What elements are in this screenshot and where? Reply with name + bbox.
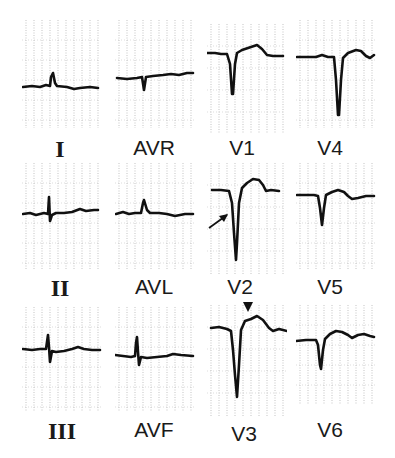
ecg-trace-lead-ii (22, 163, 100, 269)
ecg-panel-lead-iii (22, 307, 102, 411)
lead-label-v6: V6 (290, 418, 370, 442)
ecg-trace-lead-v2 (207, 163, 285, 275)
lead-label-avr: AVR (114, 136, 194, 160)
ecg-trace-lead-v6 (296, 305, 376, 405)
ecg-panel-lead-v5 (296, 163, 376, 269)
lead-label-ii: II (20, 275, 100, 302)
arrow-annotation-v2 (209, 214, 228, 228)
lead-label-v2: V2 (200, 275, 280, 299)
lead-label-v5: V5 (290, 275, 370, 299)
ecg-panel-lead-avf (115, 307, 195, 411)
lead-label-avf: AVF (114, 418, 194, 442)
lead-label-avl: AVL (114, 275, 194, 299)
ecg-panel-lead-avl (115, 163, 195, 269)
ecg-panel-lead-avr (115, 20, 195, 128)
ecg-panel-lead-v4 (296, 20, 376, 128)
lead-label-v1: V1 (202, 136, 282, 160)
lead-label-iii: III (22, 418, 102, 445)
ecg-trace-lead-i (22, 20, 100, 128)
lead-label-i: I (20, 136, 100, 163)
ecg-trace-lead-avf (115, 307, 195, 411)
ecg-trace-lead-avr (115, 20, 195, 128)
arrowhead-marker-v3 (243, 302, 253, 312)
ecg-panel-lead-v1 (207, 24, 285, 134)
ecg-panel-lead-v2 (207, 163, 285, 275)
ecg-panel-lead-i (22, 20, 100, 128)
ecg-trace-lead-v5 (296, 163, 376, 269)
ecg-trace-lead-v3 (207, 305, 287, 417)
ecg-trace-lead-iii (22, 307, 102, 411)
ecg-panel-lead-v6 (296, 305, 376, 405)
ecg-trace-lead-v1 (207, 24, 285, 134)
ecg-trace-lead-v4 (296, 20, 376, 128)
ecg-panel-lead-v3 (207, 305, 287, 417)
ecg-trace-lead-avl (115, 163, 195, 269)
ecg-panel-lead-ii (22, 163, 100, 269)
lead-label-v4: V4 (290, 136, 370, 160)
lead-label-v3: V3 (204, 422, 284, 446)
